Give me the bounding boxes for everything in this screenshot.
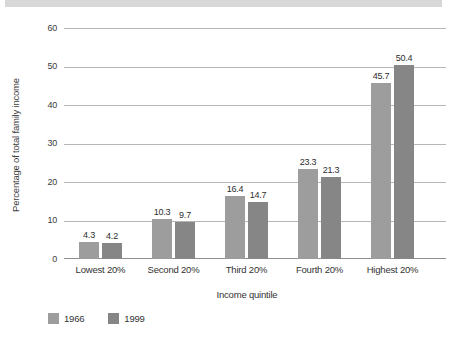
legend-item-1966: 1966 [48,313,84,324]
bar-value-label: 14.7 [250,190,267,200]
y-tick-label: 50 [33,61,57,72]
bar-1999-fourth-20 [321,177,341,259]
bar-value-label: 4.2 [106,231,118,241]
bar-1966-fourth-20 [298,169,318,259]
y-tick-label: 20 [33,177,57,188]
y-axis-title: Percentage of total family income [10,35,22,255]
x-category-label: Fourth 20% [296,264,343,275]
bar-1966-second-20 [152,219,172,259]
bar-value-label: 45.7 [373,71,390,81]
legend-label: 1966 [64,313,84,324]
bar-1966-lowest-20 [79,242,99,259]
y-tick-label: 0 [33,254,57,265]
x-axis-title: Income quintile [64,289,430,300]
x-category-label: Lowest 20% [76,264,126,275]
top-divider-strip [5,0,442,7]
x-category-label: Third 20% [226,264,268,275]
plot-area: 4.34.210.39.716.414.723.321.345.750.4 [64,28,446,259]
bar-value-label: 9.7 [179,210,191,220]
bar-1966-third-20 [225,196,245,259]
bar-value-label: 23.3 [300,157,317,167]
legend: 19661999 [48,313,169,324]
gridline [64,28,446,29]
bar-value-label: 16.4 [227,184,244,194]
bar-value-label: 10.3 [154,207,171,217]
legend-swatch-1999 [108,313,119,324]
bar-value-label: 4.3 [83,230,95,240]
bar-1999-second-20 [175,222,195,259]
y-tick-label: 40 [33,100,57,111]
bar-1999-highest-20 [394,65,414,259]
legend-label: 1999 [124,313,144,324]
y-tick-label: 30 [33,138,57,149]
legend-swatch-1966 [48,313,59,324]
x-category-label: Highest 20% [367,264,419,275]
bar-value-label: 50.4 [396,53,413,63]
bar-1999-third-20 [248,202,268,259]
y-tick-label: 60 [33,23,57,34]
gridline [64,67,446,68]
bar-value-label: 21.3 [323,165,340,175]
bar-1999-lowest-20 [102,243,122,259]
x-category-label: Second 20% [148,264,200,275]
bar-1966-highest-20 [371,83,391,259]
y-tick-label: 10 [33,215,57,226]
legend-item-1999: 1999 [108,313,144,324]
figure: Percentage of total family income 4.34.2… [0,0,456,339]
